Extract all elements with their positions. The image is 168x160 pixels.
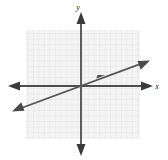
x-axis-label: x [154,82,159,91]
y-axis-label: y [75,3,80,12]
graph-canvas: y x [0,0,168,160]
x-axis-right-arrowhead [141,82,153,91]
y-axis-top-arrowhead [77,12,86,24]
plotted-line-start-arrowhead [12,102,25,111]
coordinate-plane-figure: y x [0,0,168,160]
x-axis-left-arrowhead [8,82,20,91]
y-axis-bottom-arrowhead [77,144,86,156]
